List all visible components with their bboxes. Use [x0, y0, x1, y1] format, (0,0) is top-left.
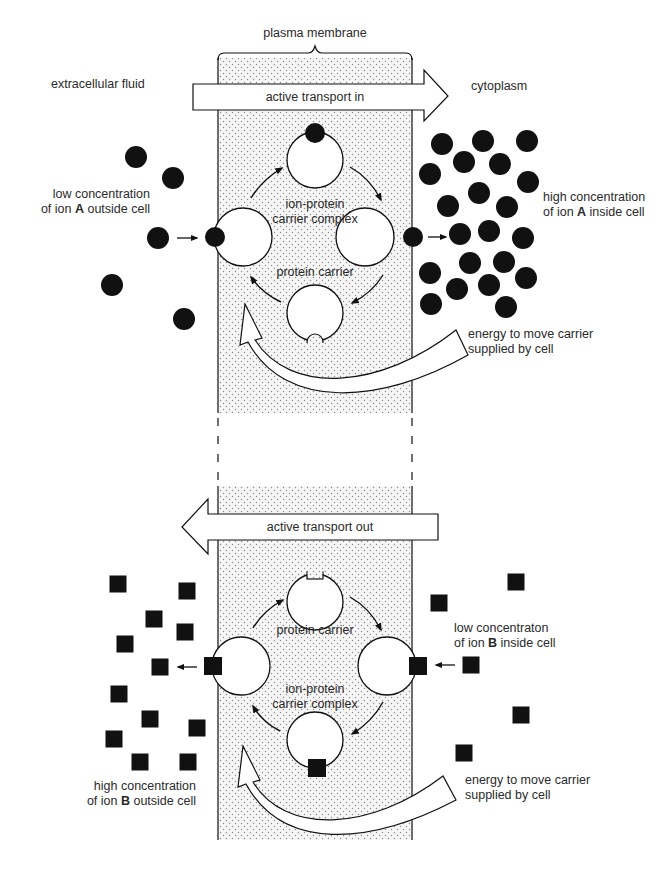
ion-b-bound	[308, 759, 326, 777]
energy-label-top: energy to move carrier supplied by cell	[468, 327, 593, 357]
ion-b	[463, 657, 480, 674]
ion-b	[111, 686, 128, 703]
membrane-gap-dashes	[218, 418, 412, 484]
ion-a-bound	[403, 227, 423, 247]
active-transport-diagram	[0, 0, 667, 876]
cytoplasm-label: cytoplasm	[471, 79, 527, 94]
low-concentration-ion-b-label: low concentraton of ion B inside cell	[454, 621, 555, 651]
ion-a	[173, 308, 195, 330]
ion-a	[468, 182, 490, 204]
transport-out-label: active transport out	[240, 520, 400, 535]
ion-a	[419, 163, 441, 185]
ion-a	[512, 227, 534, 249]
ion-a-bound	[205, 227, 225, 247]
high-concentration-ion-a-label: high concentration of ion A inside cell	[543, 190, 645, 220]
ion-b	[106, 731, 123, 748]
ion-b	[132, 754, 149, 771]
ion-a	[449, 223, 471, 245]
ion-a	[496, 196, 518, 218]
ion-b	[110, 576, 127, 593]
label-line: of ion A inside cell	[543, 205, 645, 220]
ion-a	[478, 274, 500, 296]
ion-a	[472, 130, 494, 152]
ion-a	[437, 195, 459, 217]
energy-label-bottom: energy to move carrier supplied by cell	[465, 773, 590, 803]
ion-a	[162, 167, 184, 189]
ion-a	[446, 278, 468, 300]
protein-carrier-label-bottom: protein carrier	[255, 623, 375, 638]
ion-b-bound	[204, 657, 222, 675]
ion-b	[117, 636, 134, 653]
ion-b	[180, 754, 197, 771]
label-line: of ion A outside cell	[20, 202, 150, 217]
ion-b	[508, 574, 525, 591]
ion-a-bound	[305, 123, 325, 143]
ion-a	[478, 220, 500, 242]
label-line: high concentration	[60, 779, 196, 794]
ion-b	[431, 595, 448, 612]
extracellular-fluid-label: extracellular fluid	[51, 77, 145, 92]
ion-b	[189, 720, 206, 737]
ion-a	[420, 293, 442, 315]
ion-b	[179, 583, 196, 600]
plasma-membrane-label: plasma membrane	[250, 26, 380, 41]
ion-protein-complex-label-bottom: ion-protein carrier complex	[255, 682, 375, 712]
ion-a	[453, 151, 475, 173]
ion-a	[515, 267, 537, 289]
transport-in-label: active transport in	[240, 90, 390, 105]
ion-b	[152, 659, 169, 676]
ion-b	[146, 611, 163, 628]
ion-b	[513, 707, 530, 724]
ion-a	[147, 227, 169, 249]
membrane-bracket	[218, 46, 412, 60]
ion-a	[517, 171, 539, 193]
ion-a	[125, 146, 147, 168]
ion-a	[516, 130, 538, 152]
high-concentration-ion-b-label: high concentration of ion B outside cell	[60, 779, 196, 809]
label-line: low concentration	[20, 187, 150, 202]
label-line: of ion B outside cell	[60, 794, 196, 809]
protein-carrier-label-top: protein carrier	[255, 265, 375, 280]
ion-protein-complex-label-top: ion-protein carrier complex	[255, 197, 375, 227]
ion-a	[459, 252, 481, 274]
ion-a	[495, 296, 517, 318]
ion-b-bound	[409, 657, 427, 675]
label-line: low concentraton	[454, 621, 555, 636]
low-concentration-ion-a-label: low concentration of ion A outside cell	[20, 187, 150, 217]
ion-b	[142, 711, 159, 728]
ion-a	[431, 133, 453, 155]
label-line: of ion B inside cell	[454, 636, 555, 651]
ion-a	[101, 274, 123, 296]
ion-a	[493, 251, 515, 273]
ion-a	[419, 262, 441, 284]
label-line: high concentration	[543, 190, 645, 205]
ion-a	[489, 153, 511, 175]
ion-b	[456, 745, 473, 762]
ion-b	[177, 624, 194, 641]
